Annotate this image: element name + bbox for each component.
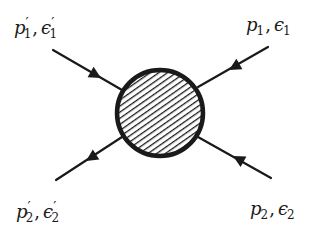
momentum-index: 1 xyxy=(24,27,32,41)
arrow-bottom-left-icon xyxy=(83,149,100,166)
momentum-symbol: p xyxy=(246,14,258,35)
separator: , xyxy=(34,201,40,222)
momentum-index: 1 xyxy=(257,24,265,38)
momentum-symbol: p xyxy=(250,198,262,219)
separator: , xyxy=(32,17,38,38)
separator: , xyxy=(269,198,275,219)
polarization-index: 2 xyxy=(287,208,295,222)
polarization-index: 2 xyxy=(51,211,59,225)
leg-top-left xyxy=(53,50,122,90)
momentum-index: 2 xyxy=(26,211,34,225)
interaction-blob xyxy=(117,70,203,156)
label-top-left: p′1,ϵ′1 xyxy=(14,16,57,40)
label-bottom-right: p2,ϵ2 xyxy=(250,200,295,221)
label-top-right: p1,ϵ1 xyxy=(246,16,291,37)
polarization-index: 1 xyxy=(49,27,57,41)
arrow-bottom-right-icon xyxy=(230,151,246,167)
momentum-index: 2 xyxy=(261,208,269,222)
arrow-top-right-icon xyxy=(226,59,242,75)
polarization-index: 1 xyxy=(283,24,291,38)
arrow-top-left-icon xyxy=(88,67,104,83)
separator: , xyxy=(265,14,271,35)
label-bottom-left: p′2,ϵ′2 xyxy=(16,200,59,224)
